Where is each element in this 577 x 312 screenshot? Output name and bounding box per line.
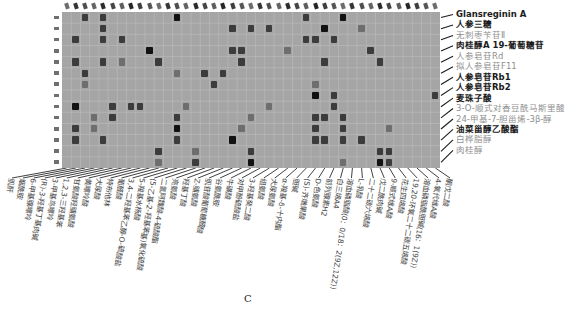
- heatmap-cell: [340, 114, 346, 121]
- heatmap-cell: [358, 25, 364, 32]
- heatmap-cell: [128, 103, 134, 110]
- heatmap-cell: [303, 36, 309, 43]
- heatmap-cell: [312, 81, 318, 88]
- heatmap-cell: [174, 125, 180, 132]
- row-header-tick: [54, 60, 59, 64]
- heatmap-cell: [100, 14, 106, 21]
- row-label: 油菜甾醇乙酸酯: [456, 125, 519, 134]
- heatmap-cell: [72, 136, 78, 143]
- row-label: 无刺枣苄苷Ⅱ: [456, 31, 505, 40]
- row-header-tick: [54, 38, 59, 42]
- heatmap-cell: [248, 25, 254, 32]
- heatmap-cell: [82, 81, 88, 88]
- heatmap-cell: [72, 125, 78, 132]
- heatmap-cell: [312, 136, 318, 143]
- heatmap-cell: [321, 114, 327, 121]
- row-header-tick: [54, 16, 59, 20]
- heatmap-cell: [266, 103, 272, 110]
- heatmap-cell: [266, 25, 272, 32]
- heatmap-cell: [174, 14, 180, 21]
- heatmap-cell: [155, 58, 161, 65]
- heatmap-cell: [303, 14, 309, 21]
- heatmap-cell: [377, 159, 383, 166]
- heatmap-cell: [229, 47, 235, 54]
- heatmap-cell: [82, 14, 88, 21]
- heatmap-cell: [248, 159, 254, 166]
- row-header-tick: [54, 105, 59, 109]
- heatmap-figure: C Glansreginin A人参三糖无刺枣苄苷Ⅱ肉桂醇A 19-葡萄糖苷人参…: [0, 0, 577, 312]
- heatmap-cell: [386, 159, 392, 166]
- heatmap-cell: [109, 114, 115, 121]
- row-header-tick: [54, 94, 59, 98]
- row-label: 麦珠子酸: [456, 94, 492, 103]
- heatmap-cell: [229, 25, 235, 32]
- heatmap-cell: [91, 125, 97, 132]
- heatmap-cell: [174, 70, 180, 77]
- col-label: 肌酐: [5, 178, 15, 193]
- row-header-tick: [54, 71, 59, 75]
- heatmap-cell: [100, 58, 106, 65]
- heatmap-cell: [358, 136, 364, 143]
- heatmap-cell: [340, 136, 346, 143]
- row-label: 人参皂苷Rd: [456, 52, 503, 61]
- heatmap-cell: [192, 159, 198, 166]
- heatmap-cell: [340, 125, 346, 132]
- heatmap-cell: [220, 70, 226, 77]
- heatmap-cell: [248, 148, 254, 155]
- heatmap-cell: [432, 92, 438, 99]
- heatmap-cell: [155, 148, 161, 155]
- row-label: 人参皂苷Rb2: [456, 83, 511, 92]
- row-label: 3-O-顺式对香豆酰马斯里酸: [456, 104, 565, 113]
- heatmap-cell: [211, 81, 217, 88]
- heatmap-cell: [238, 58, 244, 65]
- heatmap-cell: [331, 92, 337, 99]
- row-header-tick: [54, 116, 59, 120]
- heatmap-cell: [201, 70, 207, 77]
- row-label: 人参皂苷Rb1: [456, 73, 511, 82]
- heatmap-cell: [137, 103, 143, 110]
- heatmap-cell: [100, 36, 106, 43]
- heatmap-cell: [321, 58, 327, 65]
- heatmap-cell: [367, 47, 373, 54]
- heatmap-cell: [312, 125, 318, 132]
- heatmap-cell: [312, 36, 318, 43]
- heatmap-cell: [91, 114, 97, 121]
- heatmap-grid: [62, 12, 440, 168]
- row-header-tick: [54, 138, 59, 142]
- row-label: 肉桂醇A 19-葡萄糖苷: [456, 41, 544, 50]
- heatmap-cell: [119, 58, 125, 65]
- heatmap-cell: [340, 159, 346, 166]
- panel-label: C: [244, 293, 252, 304]
- heatmap-cell: [72, 58, 78, 65]
- col-label: 烟酰胺: [15, 178, 26, 200]
- heatmap-cell: [82, 70, 88, 77]
- heatmap-cell: [100, 25, 106, 32]
- heatmap-cell: [331, 103, 337, 110]
- heatmap-cell: [238, 47, 244, 54]
- heatmap-cell: [377, 148, 383, 155]
- heatmap-cell: [229, 136, 235, 143]
- row-label: 24-甲基-7-胆甾烯-3β-醇: [456, 115, 552, 124]
- heatmap-cell: [155, 159, 161, 166]
- heatmap-cell: [72, 103, 78, 110]
- heatmap-cell: [183, 103, 189, 110]
- heatmap-cell: [248, 114, 254, 121]
- row-label: 人参三糖: [456, 20, 492, 29]
- row-header-tick: [54, 49, 59, 53]
- heatmap-cell: [119, 36, 125, 43]
- col-label: 胆碱: [290, 178, 300, 193]
- heatmap-cell: [174, 136, 180, 143]
- row-label: Glansreginin A: [456, 10, 526, 19]
- row-header-tick: [54, 27, 59, 31]
- row-header-tick: [54, 82, 59, 86]
- row-label: 白桦脂醇: [456, 135, 492, 144]
- heatmap-cell: [312, 92, 318, 99]
- heatmap-cell: [312, 114, 318, 121]
- row-header-tick: [54, 127, 59, 131]
- row-label: 肉桂醇: [456, 146, 483, 155]
- heatmap-cell: [192, 148, 198, 155]
- row-label: 拟人参皂苷F11: [456, 62, 517, 71]
- heatmap-cell: [321, 25, 327, 32]
- heatmap-cell: [109, 103, 115, 110]
- heatmap-cell: [146, 47, 152, 54]
